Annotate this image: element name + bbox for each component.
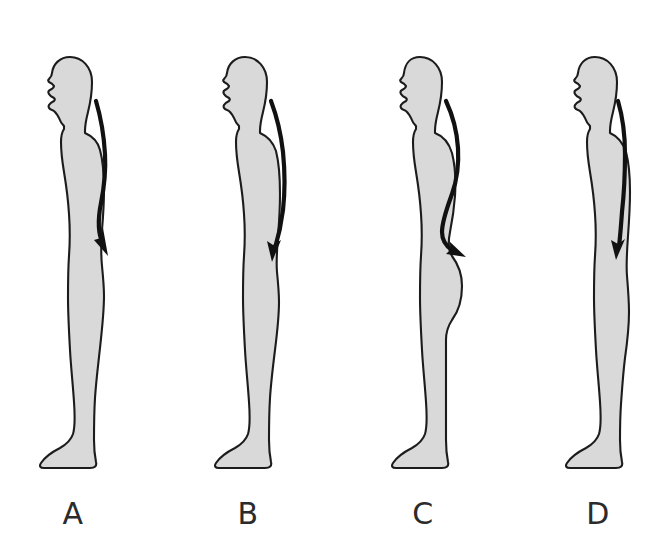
figure-label-a: A bbox=[43, 496, 103, 531]
posture-figure: A B C D bbox=[0, 0, 664, 544]
figure-c-group bbox=[392, 57, 466, 468]
figure-label-b: B bbox=[218, 496, 278, 531]
posture-illustration bbox=[0, 0, 664, 544]
figure-a-group bbox=[40, 57, 108, 468]
figure-b-group bbox=[215, 57, 285, 468]
figure-a-silhouette bbox=[40, 57, 104, 468]
figure-label-d: D bbox=[568, 496, 628, 531]
figure-b-silhouette bbox=[215, 57, 280, 468]
figure-label-c: C bbox=[393, 496, 453, 531]
figure-d-group bbox=[566, 57, 630, 468]
